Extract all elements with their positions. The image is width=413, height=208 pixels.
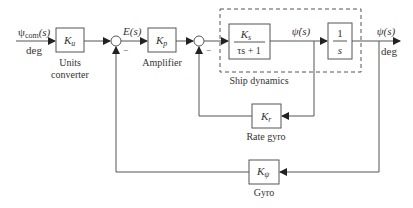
svg-text:Units: Units [59,57,81,68]
units-converter-block: Ku Units converter [51,28,89,80]
svg-text:ψcom(s): ψcom(s) [18,26,51,40]
svg-text:Gyro: Gyro [254,187,275,198]
svg-text:Rate gyro: Rate gyro [246,131,285,142]
error-signal-label: E(s) [122,25,142,38]
block-diagram: ψcom(s) deg Ku Units converter − E(s) Kp… [0,0,413,208]
svg-text:−: − [123,45,128,55]
svg-text:1: 1 [337,27,343,39]
svg-text:converter: converter [51,69,89,80]
svg-text:τs + 1: τs + 1 [237,45,261,56]
integrator-block: 1 s [328,23,352,59]
svg-text:ψ(s): ψ(s) [377,25,396,38]
svg-text:Ship dynamics: Ship dynamics [229,75,288,86]
amplifier-block: Kp Amplifier [142,28,182,68]
svg-text:deg: deg [381,45,397,57]
rate-signal-label: ψ̇(s) [292,25,311,38]
svg-text:s: s [338,44,342,56]
svg-text:deg: deg [26,44,42,56]
svg-text:Amplifier: Amplifier [142,57,182,68]
summing-junction-2: − [194,36,211,55]
ship-transfer-block: Ks τs + 1 [229,24,270,59]
svg-text:−: − [206,45,211,55]
summing-junction-1: − [111,36,128,55]
input-signal: ψcom(s) deg [16,26,55,56]
